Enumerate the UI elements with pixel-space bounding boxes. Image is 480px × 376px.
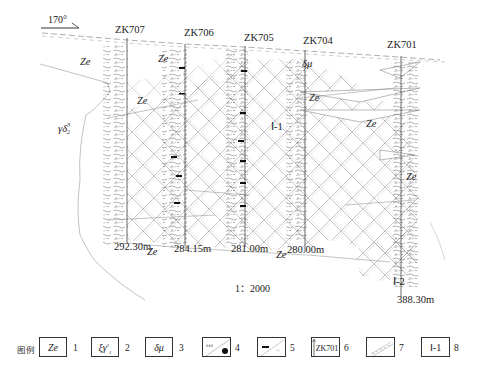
- legend-swatch-borehole: ZK701: [311, 337, 340, 357]
- legend-number: 7: [399, 343, 404, 353]
- scale-label: 1：2000: [235, 284, 270, 294]
- dot-pattern-icon: [203, 338, 231, 357]
- legend-swatch-orebody-number: Ⅰ-1: [421, 337, 450, 357]
- bar-pattern-icon: [258, 338, 286, 357]
- geological-cross-section: [0, 0, 480, 376]
- unit-label-ze: Ze: [406, 172, 417, 183]
- legend-symbol: ZK701: [315, 344, 339, 353]
- borehole-label-zk704: ZK704: [303, 36, 333, 47]
- unit-label-ze: Ze: [309, 93, 320, 104]
- borehole-label-zk705: ZK705: [244, 33, 274, 44]
- depth-zk707: 292.30m: [114, 242, 151, 253]
- legend-swatch-bar-pattern: [257, 337, 286, 357]
- legend-number: 8: [454, 343, 459, 353]
- gamma-delta-symbol: γδ: [58, 123, 67, 134]
- unit-label-ze: Ze: [147, 247, 158, 258]
- legend-swatch-hatch: [366, 337, 395, 357]
- legend-swatch-granite: ξγ21: [91, 337, 119, 357]
- borehole-label-zk701: ZK701: [387, 40, 417, 51]
- depth-zk705: 281.00m: [231, 244, 268, 255]
- unit-label-ze: Ze: [366, 119, 377, 130]
- legend-symbol: Ze: [40, 342, 66, 353]
- legend-symbol: δμ: [146, 342, 172, 353]
- orebody-label-I-1: Ⅰ-1: [271, 122, 283, 133]
- legend-swatch-dot-pattern: [202, 337, 231, 357]
- gamma-delta-sup: 3: [67, 122, 70, 128]
- intrusion-boundary-right: [430, 222, 445, 260]
- unit-label-ze: Ze: [158, 54, 169, 65]
- unit-label-ze: Ze: [80, 57, 91, 68]
- legend-number: 4: [235, 343, 240, 353]
- legend-number: 1: [73, 343, 78, 353]
- orebody-label-I-2: Ⅰ-2: [393, 277, 405, 288]
- unit-label-ze: Ze: [276, 250, 287, 261]
- unit-label-dmu: δμ: [302, 59, 312, 70]
- legend-swatch-dmu: δμ: [145, 337, 173, 357]
- legend-title: 图例: [17, 343, 35, 355]
- orientation-label: 170°: [48, 15, 67, 25]
- legend-number: 5: [290, 343, 295, 353]
- legend: 图例 Ze 1 ξγ21 2 δμ 3 4: [17, 337, 477, 361]
- depth-zk706: 284.15m: [174, 244, 211, 255]
- legend-swatch-ze: Ze: [39, 337, 67, 357]
- gamma-delta-sub: 2: [67, 129, 70, 135]
- depth-zk701: 388.30m: [397, 295, 434, 306]
- hatch-pattern-icon: [367, 338, 395, 357]
- borehole-label-zk707: ZK707: [115, 25, 145, 36]
- legend-number: 6: [344, 343, 349, 353]
- legend-symbol: Ⅰ-1: [422, 342, 449, 353]
- borehole-label-zk706: ZK706: [184, 28, 214, 39]
- unit-label-gamma-delta: γδ32: [58, 124, 73, 135]
- legend-number: 2: [125, 343, 130, 353]
- depth-zk704: 280.00m: [287, 245, 324, 256]
- legend-symbol: ξγ21: [92, 342, 118, 355]
- unit-label-ze: Ze: [137, 96, 148, 107]
- legend-number: 3: [179, 343, 184, 353]
